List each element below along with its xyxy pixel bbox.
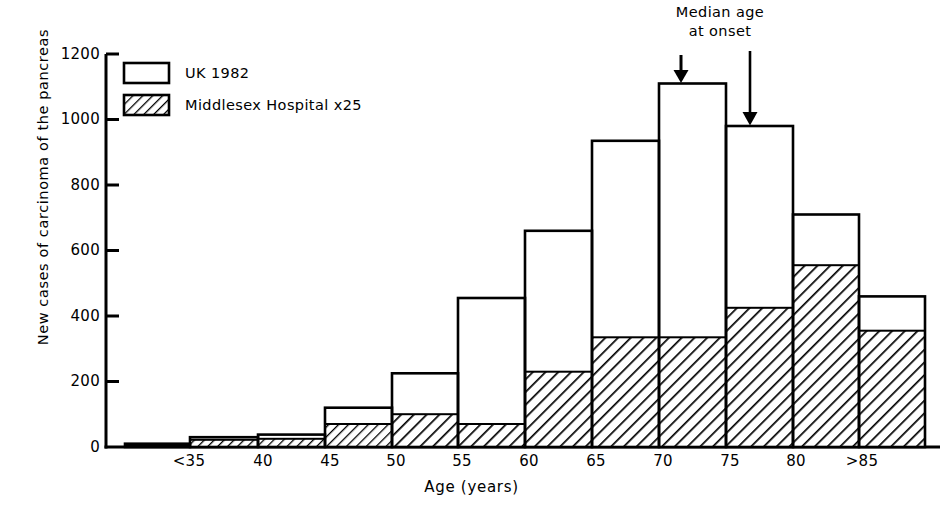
y-tick-label-1000: 1000 (22, 110, 100, 128)
y-tick-label-1200: 1200 (22, 45, 100, 63)
x-tick-label-45: 45 (299, 452, 361, 470)
legend-label-middlesex: Middlesex Hospital x25 (185, 97, 362, 113)
legend-label-uk1982: UK 1982 (185, 65, 249, 81)
legend-swatch-middlesex (124, 95, 169, 115)
median-age-arrow-1 (674, 55, 689, 83)
x-tick-label-60: 60 (498, 452, 560, 470)
x-tick-label-75: 75 (699, 452, 761, 470)
legend-swatch-uk1982 (124, 63, 169, 83)
median-age-annotation: Median age at onset (615, 3, 825, 41)
y-tick-label-200: 200 (22, 372, 100, 390)
median-age-annotation-line1: Median age (615, 3, 825, 22)
histogram-plot (0, 0, 943, 507)
y-tick-label-0: 0 (22, 438, 100, 456)
chart-figure: New cases of carcinoma of the pancreas 1… (0, 0, 943, 507)
y-tick-label-600: 600 (22, 241, 100, 259)
x-axis-title: Age (years) (0, 478, 943, 496)
x-tick-label-65: 65 (565, 452, 627, 470)
x-tick-label-40: 40 (232, 452, 294, 470)
median-age-arrow-2 (743, 51, 758, 126)
median-age-annotation-line2: at onset (615, 22, 825, 41)
x-tick-label-50: 50 (365, 452, 427, 470)
y-tick-label-800: 800 (22, 176, 100, 194)
x-tick-label-80: 80 (765, 452, 827, 470)
x-tick-label-gt85: >85 (829, 452, 895, 470)
y-tick-label-400: 400 (22, 307, 100, 325)
x-tick-label-lt35: <35 (157, 452, 221, 470)
x-tick-label-55: 55 (431, 452, 493, 470)
x-tick-label-70: 70 (632, 452, 694, 470)
